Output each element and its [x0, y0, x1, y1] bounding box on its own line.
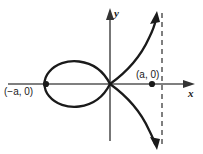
y-axis-label: y [112, 7, 119, 19]
curve-lower-branch [110, 84, 155, 144]
left-point-label: (−a, 0) [4, 86, 33, 97]
left-intercept-dot [43, 81, 49, 87]
x-axis-label: x [187, 87, 194, 99]
y-axis-arrowhead [106, 8, 114, 20]
upper-branch-arrowhead [150, 11, 160, 24]
right-intercept-dot [149, 81, 155, 87]
curve-plot: (−a, 0) (a, 0) y x [0, 0, 203, 154]
figure-container: (−a, 0) (a, 0) y x [0, 0, 203, 154]
right-point-label: (a, 0) [136, 69, 159, 80]
lower-branch-arrowhead [150, 137, 160, 150]
